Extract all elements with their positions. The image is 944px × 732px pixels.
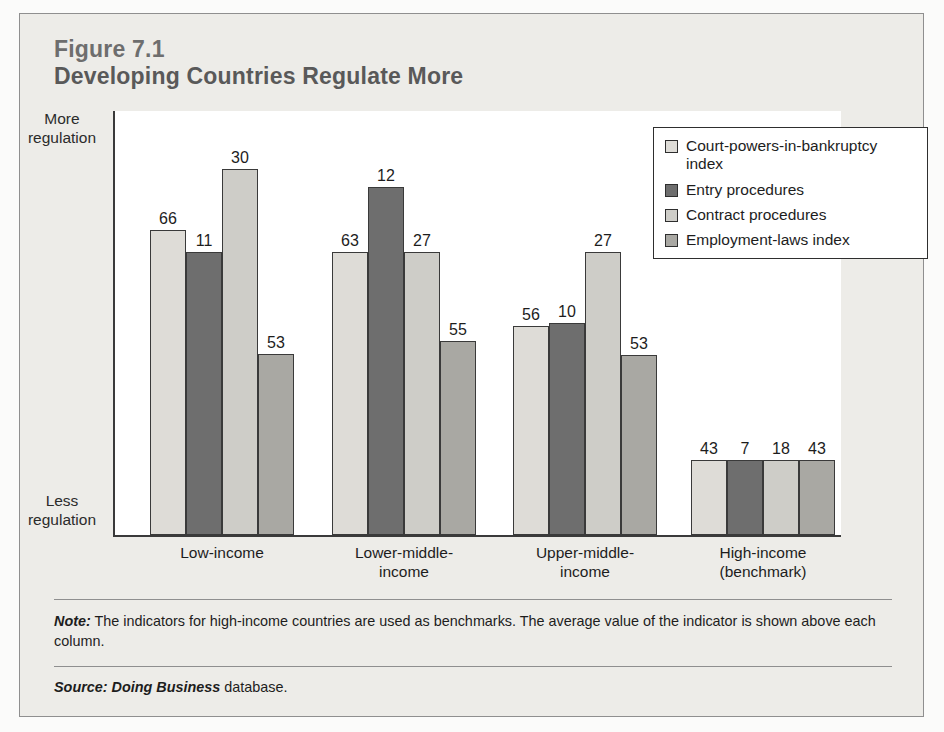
bar-value-label: 53 [630, 335, 648, 353]
bar-value-label: 66 [159, 210, 177, 228]
bar-value-label: 27 [594, 232, 612, 250]
bar-3-2[interactable]: 18 [763, 460, 799, 535]
legend-swatch-icon [665, 234, 678, 247]
legend-item-0[interactable]: Court-powers-in-bankruptcy index [665, 137, 917, 174]
bar-1-0[interactable]: 63 [332, 252, 368, 535]
legend-swatch-icon [665, 209, 678, 222]
legend-item-3[interactable]: Employment-laws index [665, 231, 917, 249]
page-title: Developing Countries Regulate More [54, 63, 754, 90]
bar-value-label: 56 [522, 306, 540, 324]
legend-item-1[interactable]: Entry procedures [665, 181, 917, 199]
source-database-name: Doing Business [108, 679, 221, 695]
note-label: Note: [54, 613, 91, 629]
bar-value-label: 11 [196, 232, 213, 250]
bar-value-label: 55 [449, 321, 467, 339]
note-text: The indicators for high-income countries… [54, 613, 876, 649]
bar-1-3[interactable]: 55 [440, 341, 476, 535]
bar-group-2: 56102753 [513, 115, 657, 535]
bar-3-1[interactable]: 7 [727, 460, 763, 535]
legend-item-label: Employment-laws index [686, 231, 850, 249]
bar-0-1[interactable]: 11 [186, 252, 222, 535]
legend-item-label: Court-powers-in-bankruptcy index [686, 137, 917, 174]
x-axis-category-label-1: Lower-middle-income [309, 543, 499, 581]
bar-2-1[interactable]: 10 [549, 323, 585, 535]
chart-legend: Court-powers-in-bankruptcy indexEntry pr… [653, 127, 928, 259]
axis-label-less-regulation: Less regulation [20, 492, 104, 530]
legend-swatch-icon [665, 184, 678, 197]
title-block: Figure 7.1 Developing Countries Regulate… [54, 36, 754, 90]
bar-value-label: 43 [808, 440, 826, 458]
source-text: database. [220, 679, 287, 695]
bar-3-0[interactable]: 43 [691, 460, 727, 535]
x-axis-line [113, 535, 841, 537]
divider-note [54, 599, 892, 600]
x-axis-category-label-0: Low-income [127, 543, 317, 562]
bar-value-label: 63 [341, 232, 359, 250]
bar-2-3[interactable]: 53 [621, 355, 657, 535]
legend-swatch-icon [665, 140, 678, 153]
bar-value-label: 10 [558, 303, 576, 321]
bar-value-label: 18 [772, 440, 790, 458]
x-axis-category-label-3: High-income(benchmark) [668, 543, 858, 581]
axis-label-more-regulation: More regulation [20, 110, 104, 148]
figure-page: Figure 7.1 Developing Countries Regulate… [0, 0, 944, 732]
bar-value-label: 12 [377, 167, 395, 185]
y-axis-line [113, 111, 115, 537]
bar-group-0: 66113053 [150, 115, 294, 535]
figure-source: Source: Doing Business database. [54, 679, 654, 695]
bar-value-label: 43 [700, 440, 718, 458]
bar-value-label: 30 [231, 149, 249, 167]
figure-number: Figure 7.1 [54, 36, 754, 63]
bar-value-label: 53 [267, 334, 285, 352]
bar-group-1: 63122755 [332, 115, 476, 535]
legend-item-2[interactable]: Contract procedures [665, 206, 917, 224]
legend-item-label: Contract procedures [686, 206, 826, 224]
source-label: Source: [54, 679, 108, 695]
x-axis-category-label-2: Upper-middle-income [490, 543, 680, 581]
bar-3-3[interactable]: 43 [799, 460, 835, 535]
bar-value-label: 7 [741, 440, 750, 458]
bar-value-label: 27 [413, 232, 431, 250]
bar-1-2[interactable]: 27 [404, 252, 440, 535]
bar-0-2[interactable]: 30 [222, 169, 258, 535]
bar-2-0[interactable]: 56 [513, 326, 549, 535]
figure-note: Note: The indicators for high-income cou… [54, 612, 899, 651]
figure-card: Figure 7.1 Developing Countries Regulate… [19, 13, 924, 717]
bar-1-1[interactable]: 12 [368, 187, 404, 535]
bar-0-0[interactable]: 66 [150, 230, 186, 535]
legend-item-label: Entry procedures [686, 181, 804, 199]
bar-2-2[interactable]: 27 [585, 252, 621, 535]
bar-0-3[interactable]: 53 [258, 354, 294, 535]
divider-source [54, 666, 892, 667]
